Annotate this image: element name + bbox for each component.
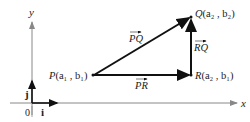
i-label: i [41, 106, 44, 118]
svg-text:RQ: RQ [193, 42, 208, 53]
j-label: j [24, 88, 29, 100]
vector-pq [94, 18, 189, 75]
point-p-marker [92, 74, 95, 77]
vector-pr-label: PR [134, 79, 148, 91]
point-r-label: R(a₂ , b₁) [194, 70, 234, 82]
vector-rq-label: RQ [193, 41, 208, 53]
vector-diagram: y x 0 j i P(a₁ , b₁) Q(a₂ , b₂) R(a₂ , b… [0, 0, 250, 122]
point-p-label: P(a₁ , b₁) [48, 70, 88, 82]
vector-pq-label: PQ [128, 32, 143, 44]
svg-text:PR: PR [134, 80, 148, 91]
x-axis-label: x [240, 97, 246, 109]
point-q-marker [190, 16, 193, 19]
origin-label: 0 [25, 107, 30, 118]
point-q-label: Q(a₂ , b₂) [195, 8, 235, 20]
y-axis-label: y [28, 6, 34, 18]
point-r-marker [190, 74, 193, 77]
svg-text:PQ: PQ [128, 33, 143, 44]
